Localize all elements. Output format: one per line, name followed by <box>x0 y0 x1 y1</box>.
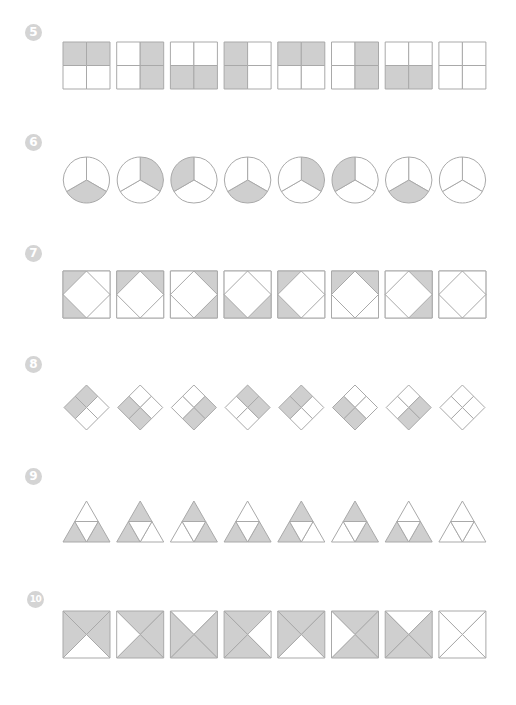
square-corners-item <box>224 271 271 318</box>
square-quarters-item <box>332 42 379 89</box>
square-x-triangles-item <box>332 611 379 658</box>
square-x-triangles-item <box>224 611 271 658</box>
problem-number-badge-6: 6 <box>25 134 42 151</box>
circle-thirds-item <box>117 157 163 203</box>
circle-thirds-item <box>225 157 271 203</box>
square-x-triangles-item <box>439 611 486 658</box>
triangle-quarters-item <box>63 501 110 542</box>
square-quarters-item <box>63 42 110 89</box>
square-corners-item <box>278 271 325 318</box>
circle-thirds-item <box>171 157 217 203</box>
diamond-quarters-item <box>64 385 109 430</box>
diamond-quarters-item <box>333 385 378 430</box>
square-quarters-item <box>439 42 486 89</box>
triangle-quarters-item <box>278 501 325 542</box>
square-x-triangles-item <box>63 611 110 658</box>
square-corners-item <box>170 271 217 318</box>
square-quarters-item <box>170 42 217 89</box>
circle-thirds-item <box>439 157 485 203</box>
square-quarters-item <box>117 42 164 89</box>
diamond-quarters-item <box>279 385 324 430</box>
square-x-triangles-item <box>278 611 325 658</box>
diamond-quarters-item <box>225 385 270 430</box>
diamond-quarters-item <box>171 385 216 430</box>
shape-row-10 <box>0 605 516 665</box>
diamond-quarters-item <box>440 385 485 430</box>
circle-thirds-item <box>64 157 110 203</box>
square-corners-item <box>63 271 110 318</box>
square-corners-item <box>439 271 486 318</box>
square-corners-item <box>117 271 164 318</box>
triangle-quarters-item <box>224 501 271 542</box>
shape-row-7 <box>0 265 516 325</box>
triangle-quarters-item <box>385 501 432 542</box>
triangle-quarters-item <box>439 501 486 542</box>
circle-thirds-item <box>278 157 324 203</box>
problem-number-badge-9: 9 <box>25 468 42 485</box>
square-corners-item <box>385 271 432 318</box>
diamond-quarters-item <box>386 385 431 430</box>
square-x-triangles-item <box>385 611 432 658</box>
problem-number-badge-7: 7 <box>25 245 42 262</box>
shape-row-6 <box>0 151 516 211</box>
square-quarters-item <box>278 42 325 89</box>
square-quarters-item <box>224 42 271 89</box>
shape-row-9 <box>0 491 516 551</box>
triangle-quarters-item <box>170 501 217 542</box>
square-x-triangles-item <box>170 611 217 658</box>
square-quarters-item <box>385 42 432 89</box>
shape-row-5 <box>0 36 516 96</box>
problem-number-badge-8: 8 <box>25 356 42 373</box>
square-x-triangles-item <box>117 611 164 658</box>
diamond-quarters-item <box>118 385 163 430</box>
triangle-quarters-item <box>117 501 164 542</box>
circle-thirds-item <box>386 157 432 203</box>
triangle-quarters-item <box>332 501 379 542</box>
circle-thirds-item <box>332 157 378 203</box>
shape-row-8 <box>0 379 516 439</box>
square-corners-item <box>332 271 379 318</box>
